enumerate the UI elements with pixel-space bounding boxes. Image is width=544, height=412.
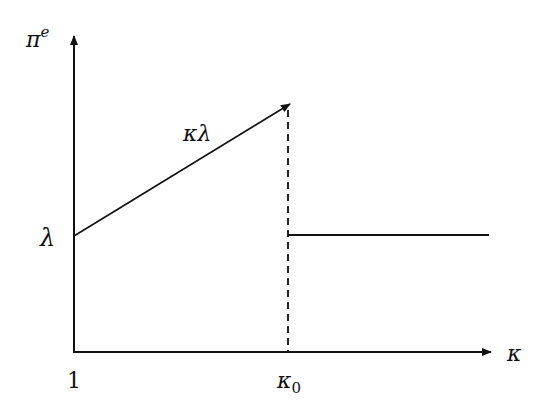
y-tick-lambda: λ xyxy=(39,224,55,252)
x-tick-origin: 1 xyxy=(67,368,81,393)
diagram-canvas: πe λ κλ 1 κ0 κ xyxy=(0,0,544,412)
rising-segment xyxy=(74,104,290,236)
x-tick-kappa0: κ0 xyxy=(276,368,301,397)
x-axis-label: κ xyxy=(506,341,522,366)
segment-label-kappa-lambda: κλ xyxy=(182,121,211,146)
y-axis-label: πe xyxy=(25,23,49,52)
